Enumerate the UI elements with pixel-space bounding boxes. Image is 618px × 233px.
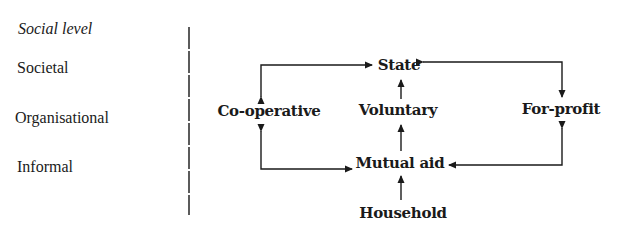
- node-household: Household: [359, 206, 446, 221]
- node-for-profit: For-profit: [522, 102, 600, 117]
- node-voluntary: Voluntary: [359, 103, 437, 118]
- node-state: State: [378, 58, 420, 73]
- node-cooperative: Co-operative: [217, 104, 320, 119]
- node-mutual-aid: Mutual aid: [356, 156, 445, 171]
- edge-forprofit-mutualaid: [449, 128, 562, 165]
- edge-cooperative-mutualaid: [261, 131, 352, 169]
- edge-state-cooperative: [261, 65, 372, 97]
- edge-state-forprofit: [423, 62, 562, 97]
